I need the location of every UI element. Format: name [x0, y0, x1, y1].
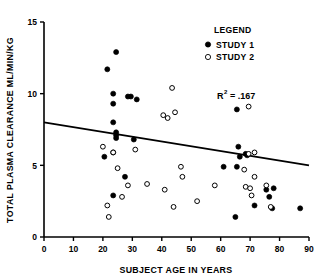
data-point [248, 186, 253, 191]
data-point [145, 182, 150, 187]
legend-label-study-1: STUDY 1 [216, 40, 254, 50]
data-point [249, 193, 254, 198]
regression-line [44, 122, 309, 165]
data-point [111, 91, 116, 96]
data-point [105, 203, 110, 208]
data-point [100, 144, 105, 149]
regression-line-group [44, 122, 309, 165]
data-point [115, 166, 120, 171]
x-tick-label: 70 [245, 244, 255, 254]
data-point [131, 137, 136, 142]
data-point [252, 203, 257, 208]
data-point [246, 104, 251, 109]
data-point [133, 147, 138, 152]
x-tick-label: 50 [186, 244, 196, 254]
scatter-plot-figure: 0102030405060708090 051015 SUBJECT AGE I… [0, 0, 324, 279]
legend: LEGEND STUDY 1 STUDY 2 [205, 25, 254, 62]
legend-marker-study-2 [205, 54, 210, 59]
data-point [114, 136, 119, 141]
x-tick-label: 20 [98, 244, 108, 254]
data-point [252, 174, 257, 179]
x-tick-label: 0 [42, 244, 47, 254]
data-point [212, 183, 217, 188]
data-point [162, 187, 167, 192]
data-point [111, 101, 116, 106]
data-point [195, 199, 200, 204]
data-point [233, 214, 238, 219]
x-tick-label: 10 [69, 244, 79, 254]
data-point [126, 183, 131, 188]
x-tick-label: 30 [128, 244, 138, 254]
data-point [128, 94, 133, 99]
data-point [179, 164, 184, 169]
data-point [102, 154, 107, 159]
x-tick-label: 80 [275, 244, 285, 254]
data-point [170, 86, 175, 91]
data-point [267, 194, 272, 199]
data-point [120, 194, 125, 199]
data-point [298, 206, 303, 211]
x-tick-label: 60 [216, 244, 226, 254]
data-point [114, 50, 119, 55]
r-squared-base: R [217, 91, 224, 101]
data-point [134, 97, 139, 102]
y-tick-label: 15 [28, 17, 38, 27]
series-study-1-points [102, 50, 303, 220]
data-point [173, 110, 178, 115]
y-tick-label: 5 [32, 161, 37, 171]
r-squared-annotation: R 2 = .167 [217, 89, 255, 101]
data-point [237, 154, 242, 159]
data-point [111, 150, 116, 155]
data-point [221, 164, 226, 169]
data-point [236, 144, 241, 149]
data-point [171, 205, 176, 210]
data-point [264, 183, 269, 188]
y-tick-group: 051015 [28, 17, 44, 242]
data-point [234, 164, 239, 169]
x-tick-label: 90 [304, 244, 314, 254]
y-tick-label: 10 [28, 89, 38, 99]
data-point [111, 193, 116, 198]
legend-title: LEGEND [214, 25, 252, 35]
x-tick-label: 40 [157, 244, 167, 254]
data-point [268, 205, 273, 210]
data-point [105, 67, 110, 72]
data-point [242, 167, 247, 172]
y-tick-label: 0 [32, 232, 37, 242]
legend-marker-study-1 [205, 42, 210, 47]
data-point [271, 186, 276, 191]
data-point [165, 116, 170, 121]
data-point [246, 151, 251, 156]
legend-label-study-2: STUDY 2 [216, 52, 254, 62]
data-point [161, 113, 166, 118]
x-tick-group: 0102030405060708090 [42, 237, 314, 254]
data-point [252, 150, 257, 155]
data-point [106, 215, 111, 220]
series-study-2-points [100, 86, 273, 220]
data-point [234, 107, 239, 112]
data-point [180, 174, 185, 179]
x-axis-title: SUBJECT AGE IN YEARS [119, 265, 232, 275]
plot-canvas: 0102030405060708090 051015 SUBJECT AGE I… [0, 0, 324, 279]
data-point [111, 120, 116, 125]
y-axis-title: TOTAL PLASMA CLEARANCE ML/MIN/KG [5, 37, 15, 223]
r-squared-value: = .167 [230, 91, 255, 101]
data-point [122, 174, 127, 179]
r-squared-superscript: 2 [224, 89, 228, 95]
